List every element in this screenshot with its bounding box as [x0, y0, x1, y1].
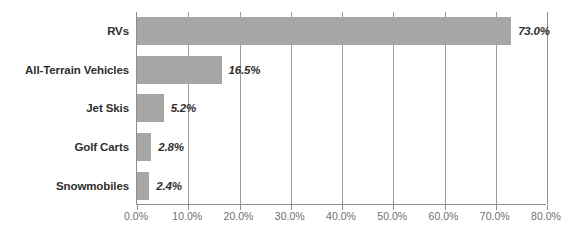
- x-tick-label: 70.0%: [480, 210, 510, 222]
- bar-value-label: 73.0%: [518, 25, 550, 37]
- gridline: [547, 12, 548, 204]
- x-tick-label: 10.0%: [172, 210, 202, 222]
- chart-title: [0, 0, 567, 2]
- category-label: Snowmobiles: [0, 166, 133, 205]
- bar-row[interactable]: 2.4%: [137, 166, 547, 205]
- bar-value-label: 16.5%: [229, 64, 261, 76]
- bar-row[interactable]: 16.5%: [137, 51, 547, 90]
- bar-row[interactable]: 5.2%: [137, 89, 547, 128]
- category-axis-labels: RVsAll-Terrain VehiclesJet SkisGolf Cart…: [0, 12, 133, 205]
- category-label: Jet Skis: [0, 89, 133, 128]
- x-axis-tick-labels: 0.0%10.0%20.0%30.0%40.0%50.0%60.0%70.0%8…: [136, 210, 546, 230]
- bar-value-label: 2.4%: [156, 180, 181, 192]
- bar[interactable]: [137, 17, 511, 45]
- x-tick-label: 50.0%: [377, 210, 407, 222]
- x-tick-label: 40.0%: [326, 210, 356, 222]
- bar-row[interactable]: 73.0%: [137, 12, 547, 51]
- x-tick-label: 0.0%: [124, 210, 148, 222]
- category-label: Golf Carts: [0, 128, 133, 167]
- x-tick-label: 60.0%: [429, 210, 459, 222]
- bar[interactable]: [137, 94, 164, 122]
- bar-rows: 73.0%16.5%5.2%2.8%2.4%: [137, 12, 547, 205]
- bar-row[interactable]: 2.8%: [137, 128, 547, 167]
- bar-chart: RVsAll-Terrain VehiclesJet SkisGolf Cart…: [0, 0, 567, 232]
- bar-value-label: 5.2%: [171, 102, 196, 114]
- bar[interactable]: [137, 172, 149, 200]
- bar[interactable]: [137, 133, 151, 161]
- bar[interactable]: [137, 56, 222, 84]
- x-tick-label: 30.0%: [275, 210, 305, 222]
- x-tick-label: 20.0%: [224, 210, 254, 222]
- x-tick-label: 80.0%: [531, 210, 561, 222]
- category-label: All-Terrain Vehicles: [0, 51, 133, 90]
- plot-area: 73.0%16.5%5.2%2.8%2.4%: [136, 12, 546, 205]
- bar-value-label: 2.8%: [158, 141, 183, 153]
- category-label: RVs: [0, 12, 133, 51]
